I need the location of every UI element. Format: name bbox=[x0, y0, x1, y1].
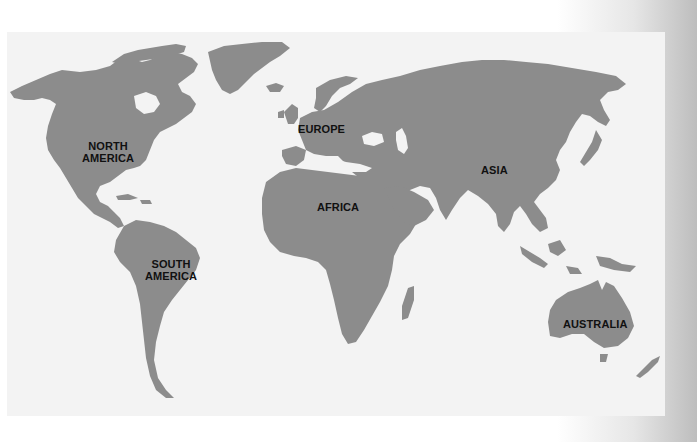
label-africa-text: AFRICA bbox=[317, 201, 359, 213]
label-asia: ASIA bbox=[481, 164, 531, 176]
label-australia-text: AUSTRALIA bbox=[563, 318, 627, 330]
label-africa: AFRICA bbox=[317, 201, 387, 213]
label-south-america: SOUTH AMERICA bbox=[131, 258, 211, 282]
southeast-asia-islands bbox=[520, 240, 582, 274]
british-isles bbox=[278, 104, 298, 124]
australia-landmass bbox=[548, 280, 634, 348]
new-zealand-islands bbox=[636, 356, 660, 378]
label-australia: AUSTRALIA bbox=[563, 318, 653, 330]
label-south-america-line2: AMERICA bbox=[131, 270, 211, 282]
iceland-landmass bbox=[266, 83, 284, 92]
tasmania-island bbox=[600, 354, 608, 362]
caribbean-islands bbox=[116, 194, 152, 204]
madagascar-island bbox=[402, 286, 414, 320]
label-north-america-line2: AMERICA bbox=[68, 152, 148, 164]
label-asia-text: ASIA bbox=[481, 164, 508, 176]
world-map-panel: NORTH AMERICA SOUTH AMERICA EUROPE AFRIC… bbox=[7, 32, 665, 416]
japan-islands bbox=[580, 130, 602, 166]
label-europe-text: EUROPE bbox=[298, 123, 345, 135]
world-map-graphic bbox=[7, 32, 665, 416]
new-guinea-island bbox=[596, 256, 636, 272]
iberian-peninsula bbox=[282, 146, 306, 166]
label-north-america: NORTH AMERICA bbox=[68, 140, 148, 164]
label-europe: EUROPE bbox=[298, 123, 368, 135]
south-america-landmass bbox=[114, 220, 200, 398]
label-north-america-line1: NORTH bbox=[68, 140, 148, 152]
label-south-america-line1: SOUTH bbox=[131, 258, 211, 270]
